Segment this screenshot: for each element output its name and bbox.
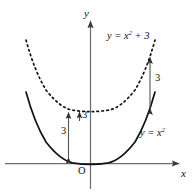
lower-curve-equation-exponent: 2 bbox=[162, 126, 165, 133]
offset-value-left: 3 bbox=[61, 126, 66, 137]
lower-curve-equation-label: y = x2 bbox=[140, 128, 165, 139]
upper-curve-equation-suffix: + 3 bbox=[132, 30, 150, 41]
upper-curve-equation-prefix: y = x bbox=[107, 30, 129, 41]
figure-canvas bbox=[0, 0, 195, 192]
origin-label: O bbox=[78, 166, 86, 177]
offset-value-center: 3 bbox=[82, 110, 87, 121]
upper-curve-equation-label: y = x2 + 3 bbox=[107, 31, 150, 42]
lower-curve-equation-prefix: y = x bbox=[140, 127, 162, 138]
offset-value-right: 3 bbox=[155, 73, 160, 84]
y-axis-label: y bbox=[84, 8, 89, 19]
x-axis-label: x bbox=[181, 168, 186, 179]
parabola-translation-figure: y x O y = x2 + 3 y = x2 3 3 3 bbox=[0, 0, 195, 192]
